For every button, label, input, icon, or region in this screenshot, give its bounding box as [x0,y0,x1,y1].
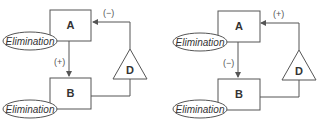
right-diagram: (+) (−) A B D Elimination Elimination [173,9,316,118]
d-to-a-sign: (−) [103,8,114,18]
node-b-label: B [235,88,243,100]
left-diagram: (−) (+) A B D Elimination Elimination [3,8,147,118]
b-to-d-line [91,79,130,96]
b-to-d-line [260,80,299,97]
node-d-label: D [295,65,303,77]
a-to-b-sign: (−) [223,58,234,68]
node-a-label: A [67,19,75,31]
d-to-a-arrow [261,23,299,50]
elimination-a-label: Elimination [6,36,55,47]
elimination-a-label: Elimination [176,37,225,48]
d-to-a-sign: (+) [273,9,284,19]
node-a-label: A [235,20,243,32]
a-to-b-sign: (+) [54,57,65,67]
diagram-canvas: (−) (+) A B D Elimination Elimination (+… [0,0,333,124]
elimination-b-label: Elimination [6,104,55,115]
node-d-label: D [126,64,134,76]
d-to-a-arrow [93,22,130,49]
node-b-label: B [67,87,75,99]
elimination-b-label: Elimination [176,104,225,115]
